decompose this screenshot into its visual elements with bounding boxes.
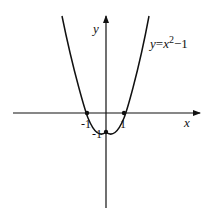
point-1-0	[122, 111, 126, 115]
function-label: y=x2−1	[148, 34, 188, 51]
x-axis-label: x	[183, 115, 190, 130]
function-label-rest: −1	[174, 36, 188, 51]
tick-label-neg1-x: -1	[81, 117, 91, 131]
graph-canvas: y x -1 1 -1 y=x2−1	[0, 0, 210, 219]
point-neg1-0	[85, 111, 89, 115]
tick-label-neg1-y: -1	[92, 127, 102, 141]
y-axis-label: y	[91, 21, 99, 36]
point-0-neg1	[104, 130, 108, 134]
tick-label-1-x: 1	[120, 117, 126, 131]
function-label-eq: =	[156, 36, 163, 51]
